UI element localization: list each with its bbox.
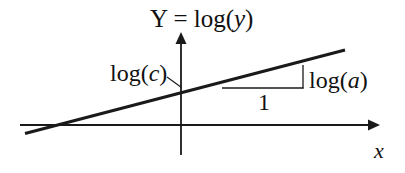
y-axis-arrowhead-icon [176,32,187,44]
y-axis-title-suffix: ) [245,5,253,32]
intercept-label: log(c) [110,61,167,85]
y-axis-title-prefix: Y = log( [150,5,234,32]
rise-label-suffix: ) [360,67,368,93]
intercept-label-variable: c [149,60,160,86]
x-axis-title: x [374,140,384,162]
intercept-label-prefix: log( [110,60,149,86]
intercept-label-suffix: ) [159,60,167,86]
log-linear-plot-figure: Y = log(y) log(c) log(a) 1 x [0,0,405,173]
intercept-leader-line [167,77,182,88]
y-axis-title-variable: y [234,5,245,32]
rise-label-prefix: log( [309,67,348,93]
regression-line [25,50,345,134]
y-axis-title: Y = log(y) [150,6,253,31]
rise-label-variable: a [348,67,360,93]
run-label: 1 [258,90,270,114]
x-axis-arrowhead-icon [368,120,380,131]
rise-label: log(a) [309,68,368,92]
